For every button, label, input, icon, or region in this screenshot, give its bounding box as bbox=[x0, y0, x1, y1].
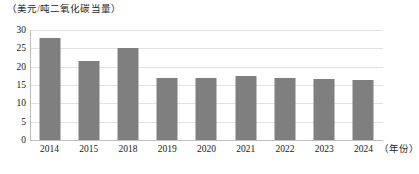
x-axis-caption: （年份） bbox=[379, 143, 419, 156]
bar-slot bbox=[265, 30, 304, 140]
bar bbox=[78, 61, 99, 140]
bar bbox=[118, 48, 139, 140]
bar-slot bbox=[305, 30, 344, 140]
bar-slot bbox=[148, 30, 187, 140]
bar-slot bbox=[30, 30, 69, 140]
bar bbox=[39, 38, 60, 140]
y-tick-label: 5 bbox=[4, 117, 26, 127]
bar bbox=[353, 80, 374, 140]
x-tick-label: 2021 bbox=[236, 143, 255, 156]
y-tick-label: 10 bbox=[4, 98, 26, 108]
bar bbox=[196, 78, 217, 140]
bar-chart-figure: （美元/吨二氧化碳当量） 051015202530 20142015201820… bbox=[0, 0, 419, 174]
y-axis-tick-labels: 051015202530 bbox=[0, 30, 26, 140]
bar-slot bbox=[69, 30, 108, 140]
bar-slot bbox=[187, 30, 226, 140]
x-tick-label: 2022 bbox=[275, 143, 294, 156]
bars-layer bbox=[30, 30, 383, 140]
bar bbox=[314, 79, 335, 140]
x-tick-label: 2024 bbox=[354, 143, 373, 156]
bar bbox=[157, 78, 178, 140]
y-tick-label: 25 bbox=[4, 43, 26, 53]
x-tick-label: 2015 bbox=[79, 143, 98, 156]
y-tick-label: 20 bbox=[4, 62, 26, 72]
y-tick-label: 0 bbox=[4, 135, 26, 145]
x-tick-label: 2020 bbox=[197, 143, 216, 156]
bar bbox=[235, 76, 256, 140]
y-tick-label: 30 bbox=[4, 25, 26, 35]
gridline-0 bbox=[30, 140, 383, 141]
x-tick-label: 2019 bbox=[158, 143, 177, 156]
x-tick-label: 2023 bbox=[315, 143, 334, 156]
bar-slot bbox=[108, 30, 147, 140]
x-axis-tick-labels: 201420152018201920202021202220232024 bbox=[30, 143, 383, 159]
x-tick-label: 2014 bbox=[40, 143, 59, 156]
bar-slot bbox=[226, 30, 265, 140]
chart-unit-caption: （美元/吨二氧化碳当量） bbox=[7, 3, 121, 16]
y-tick-label: 15 bbox=[4, 80, 26, 90]
bar-slot bbox=[344, 30, 383, 140]
x-tick-label: 2018 bbox=[119, 143, 138, 156]
bar bbox=[274, 78, 295, 140]
